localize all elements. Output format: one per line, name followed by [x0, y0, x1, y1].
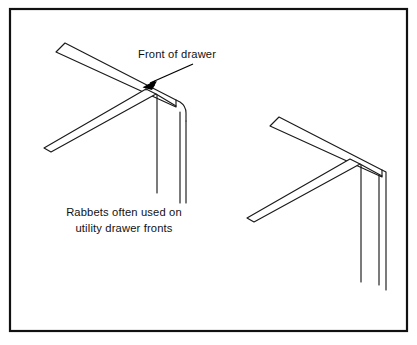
front-of-drawer-callout	[143, 64, 194, 90]
right-front-corner-outer	[382, 170, 386, 290]
caption-line-2: utility drawer fronts	[75, 222, 172, 234]
right-joint	[247, 117, 386, 290]
right-front-top-face	[270, 117, 382, 177]
right-side-top-face	[247, 159, 360, 222]
left-side-top-face	[44, 89, 156, 152]
rabbet-joint-drawing: Front of drawer Rabbets often used on ut…	[0, 0, 417, 345]
callout-leader-line	[150, 64, 193, 83]
callout-label: Front of drawer	[138, 48, 216, 60]
diagram-canvas: Front of drawer Rabbets often used on ut…	[0, 0, 417, 345]
left-joint	[44, 43, 186, 203]
caption-line-1: Rabbets often used on	[66, 206, 182, 218]
left-front-corner-nose-outer	[176, 100, 186, 121]
